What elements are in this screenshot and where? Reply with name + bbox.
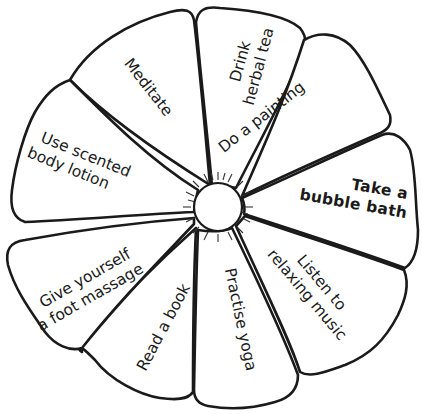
self-care-wheel: Drink herbal tea Do a painting Take a bu…: [0, 0, 422, 414]
center-hub: [194, 183, 242, 231]
